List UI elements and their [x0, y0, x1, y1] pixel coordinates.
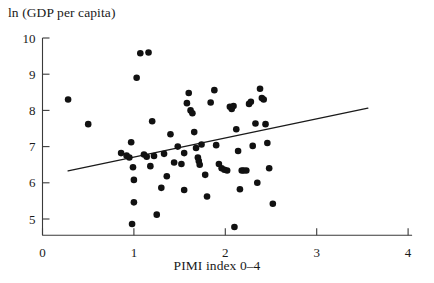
data-point: [198, 141, 205, 148]
data-point: [129, 221, 136, 228]
data-point: [189, 110, 196, 117]
data-point: [149, 118, 156, 125]
data-point: [131, 199, 138, 206]
data-point: [191, 129, 198, 136]
data-point: [158, 185, 165, 192]
data-point: [137, 50, 144, 57]
data-point: [231, 224, 238, 231]
data-point: [164, 173, 171, 180]
data-point: [233, 126, 240, 133]
y-tick-label: 9: [10, 68, 36, 81]
data-point: [131, 177, 138, 184]
data-point-group: [65, 49, 276, 230]
y-tick-label: 7: [10, 140, 36, 153]
data-point: [243, 167, 250, 174]
data-point: [266, 165, 273, 172]
data-point: [196, 161, 203, 168]
data-point: [65, 96, 72, 103]
data-point: [126, 154, 133, 161]
plot-area: [0, 0, 434, 283]
data-point: [257, 85, 264, 92]
data-point: [153, 211, 160, 218]
data-point: [181, 150, 188, 157]
y-tick-label: 10: [10, 32, 36, 45]
x-tick-label: 3: [304, 246, 330, 259]
data-point: [161, 151, 168, 158]
x-axis-label: PIMI index 0–4: [0, 259, 434, 273]
data-point: [248, 98, 255, 105]
scatter-chart-figure: ln (GDP per capita) 567891001234 PIMI in…: [0, 0, 434, 283]
data-point: [264, 140, 271, 147]
data-point: [178, 161, 185, 168]
data-point: [213, 142, 220, 149]
data-point: [260, 96, 267, 103]
data-point: [128, 139, 135, 146]
data-point: [224, 167, 231, 174]
y-tick-label: 5: [10, 213, 36, 226]
data-point: [174, 143, 181, 150]
data-point: [211, 87, 218, 94]
data-point: [252, 120, 259, 127]
x-tick-label: 1: [121, 246, 147, 259]
data-point: [249, 143, 256, 150]
data-point: [237, 186, 244, 193]
y-tick-label: 8: [10, 104, 36, 117]
x-tick-label: 0: [30, 246, 56, 259]
data-point: [202, 172, 209, 179]
data-point: [133, 75, 140, 82]
data-point: [151, 153, 158, 160]
data-point: [184, 100, 191, 107]
data-point: [185, 90, 192, 97]
data-point: [204, 193, 211, 200]
data-point: [235, 148, 242, 155]
y-tick-label: 6: [10, 176, 36, 189]
x-tick-label: 4: [395, 246, 421, 259]
data-point: [230, 103, 237, 110]
data-point: [130, 164, 137, 171]
data-point: [145, 49, 152, 56]
data-point: [171, 159, 178, 166]
data-point: [262, 121, 269, 128]
data-point: [254, 180, 261, 187]
data-point: [270, 201, 277, 208]
data-point: [85, 121, 92, 128]
data-point: [147, 163, 154, 170]
data-point: [167, 131, 174, 138]
data-point: [181, 187, 188, 194]
data-point: [143, 153, 150, 160]
data-point: [207, 99, 214, 106]
data-point: [193, 145, 200, 152]
